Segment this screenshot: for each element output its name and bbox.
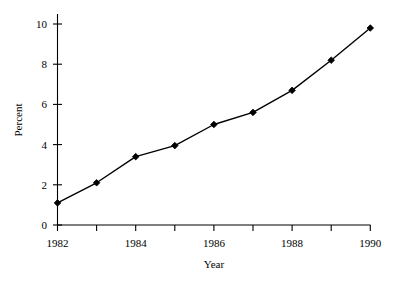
y-tick-label-6: 6	[42, 98, 48, 110]
y-tick-label-2: 2	[42, 179, 48, 191]
y-axis-title: Percent	[12, 104, 24, 137]
x-tick-label-1984: 1984	[125, 237, 148, 249]
x-axis-title: Year	[204, 258, 225, 270]
line-chart: 0 2 4 6 8 10 1982 1984 1986 1988 1990	[0, 0, 407, 281]
y-tick-label-4: 4	[42, 139, 48, 151]
y-tick-label-10: 10	[36, 18, 48, 30]
x-tick-label-1990: 1990	[359, 237, 382, 249]
x-tick-label-1982: 1982	[47, 237, 69, 249]
y-tick-label-0: 0	[42, 219, 48, 231]
x-tick-label-1986: 1986	[203, 237, 226, 249]
x-tick-label-1988: 1988	[281, 237, 304, 249]
chart-container: 0 2 4 6 8 10 1982 1984 1986 1988 1990	[0, 0, 407, 281]
y-tick-label-8: 8	[42, 58, 48, 70]
